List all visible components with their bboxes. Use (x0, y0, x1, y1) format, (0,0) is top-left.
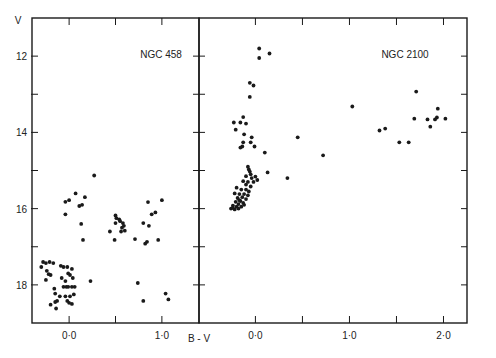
star-point (241, 115, 245, 119)
star-point (378, 129, 382, 133)
star-point (231, 206, 235, 210)
star-point (67, 198, 71, 202)
panel-ngc-2100: NGC 2100 0·01·02·0 (199, 18, 467, 341)
star-point (44, 261, 48, 265)
star-point (64, 212, 68, 216)
star-point (255, 178, 259, 182)
star-point (49, 273, 53, 277)
star-point (154, 211, 158, 215)
star-point (240, 195, 244, 199)
star-point (249, 185, 253, 189)
star-point (73, 285, 77, 289)
star-point (244, 174, 248, 178)
star-point (247, 190, 251, 194)
star-point (62, 265, 66, 269)
axis-ticks: 0·01·02·0 (199, 18, 467, 341)
star-point (52, 287, 56, 291)
star-point (237, 207, 241, 211)
star-point (426, 118, 430, 122)
star-point (249, 140, 253, 144)
star-point (48, 260, 52, 264)
star-point (71, 276, 75, 280)
star-point (119, 230, 123, 234)
panel-ngc-458: NGC 458 0·01·012141618 (16, 18, 199, 341)
axis-ticks: 0·01·012141618 (16, 18, 199, 341)
star-point (444, 117, 448, 121)
cmd-figure: V B - V NGC 458 0·01·012141618 NGC 2100 … (0, 0, 496, 358)
star-point (133, 237, 137, 241)
y-tick-label: 14 (16, 127, 28, 138)
star-point (383, 127, 387, 131)
star-point (89, 279, 93, 283)
star-point (244, 183, 248, 187)
star-point (79, 222, 83, 226)
star-point (45, 269, 49, 273)
star-point (253, 145, 257, 149)
y-tick-label: 12 (16, 51, 28, 62)
panel-frame (32, 18, 199, 323)
star-point (397, 140, 401, 144)
star-point (66, 285, 70, 289)
star-point (436, 107, 440, 111)
star-point (113, 238, 117, 242)
y-axis-title: V (15, 15, 22, 26)
star-point (68, 294, 72, 298)
star-point (433, 118, 437, 122)
panel-frame (199, 18, 467, 323)
star-point (92, 174, 96, 178)
star-point (150, 212, 154, 216)
star-point (81, 238, 85, 242)
star-point (250, 135, 254, 139)
star-point (64, 294, 68, 298)
star-point (143, 242, 147, 246)
star-point (407, 140, 411, 144)
star-point (241, 179, 245, 183)
star-point (257, 47, 261, 51)
star-point (242, 203, 246, 207)
x-tick-label: 1·0 (155, 330, 170, 341)
star-point (74, 192, 78, 196)
star-point (49, 303, 53, 307)
star-point (72, 293, 76, 297)
star-point (60, 276, 64, 280)
star-point (238, 192, 242, 196)
star-point (239, 121, 243, 125)
star-point (321, 153, 325, 157)
star-point (233, 192, 237, 196)
star-point (412, 117, 416, 121)
star-point (53, 300, 57, 304)
star-point (242, 132, 246, 136)
star-point (286, 176, 290, 180)
star-point (244, 197, 248, 201)
star-point (252, 180, 256, 184)
star-point (108, 230, 112, 234)
star-point (239, 188, 243, 192)
star-point (250, 176, 254, 180)
data-points (39, 174, 170, 311)
star-point (246, 193, 250, 197)
x-tick-label: 1·0 (342, 330, 357, 341)
star-point (252, 84, 256, 88)
star-point (64, 279, 68, 283)
star-point (147, 224, 151, 228)
star-point (146, 200, 150, 204)
star-point (70, 302, 74, 306)
x-tick-label: 0·0 (62, 330, 77, 341)
star-point (123, 229, 127, 233)
star-point (44, 278, 48, 282)
star-point (254, 175, 258, 179)
star-point (68, 273, 72, 277)
star-point (268, 52, 272, 56)
star-point (160, 198, 164, 202)
star-point (167, 298, 171, 302)
star-point (141, 221, 145, 225)
x-tick-label: 0·0 (248, 330, 263, 341)
star-point (51, 261, 55, 265)
star-point (156, 238, 160, 242)
star-point (244, 122, 248, 126)
star-point (248, 95, 252, 99)
data-points (229, 47, 447, 212)
star-point (65, 265, 69, 269)
star-point (266, 171, 270, 175)
y-tick-label: 18 (16, 280, 28, 291)
